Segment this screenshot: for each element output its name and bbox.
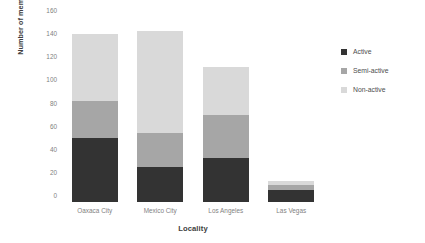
stacked-bar-chart: Number of members 160140120100806040200 … bbox=[0, 0, 425, 243]
bars-layer: Oaxaca CityMexico CityLos AngelesLas Veg… bbox=[62, 17, 324, 202]
bar-segment-non-active[interactable] bbox=[72, 34, 118, 101]
legend-item[interactable]: Semi-active bbox=[341, 61, 389, 80]
legend-label: Non-active bbox=[353, 86, 386, 93]
bar-segment-active[interactable] bbox=[203, 158, 249, 202]
plot-area: 160140120100806040200 Oaxaca CityMexico … bbox=[62, 17, 324, 202]
bar-segment-non-active[interactable] bbox=[203, 67, 249, 116]
y-axis-tick-label: 0 bbox=[31, 192, 57, 199]
bar-stack[interactable] bbox=[72, 34, 118, 202]
x-axis-tick-label: Los Angeles bbox=[208, 207, 243, 214]
legend-item[interactable]: Non-active bbox=[341, 80, 389, 99]
bar-segment-semi-active[interactable] bbox=[137, 133, 183, 168]
y-axis-tick-label: 120 bbox=[31, 53, 57, 60]
bar-stack[interactable] bbox=[268, 181, 314, 202]
bar-segment-active[interactable] bbox=[137, 167, 183, 202]
bar-segment-semi-active[interactable] bbox=[203, 115, 249, 158]
bar-group: Los Angeles bbox=[203, 17, 249, 202]
y-axis-tick-label: 160 bbox=[31, 7, 57, 14]
bar-stack[interactable] bbox=[137, 31, 183, 202]
bar-segment-active[interactable] bbox=[268, 190, 314, 202]
y-axis-tick-label: 100 bbox=[31, 76, 57, 83]
y-axis-tick-label: 80 bbox=[31, 99, 57, 106]
bar-group: Mexico City bbox=[137, 17, 183, 202]
legend-label: Active bbox=[353, 48, 372, 55]
x-axis-title: Locality bbox=[62, 224, 324, 233]
x-axis-tick-label: Las Vegas bbox=[276, 207, 306, 214]
bar-group: Las Vegas bbox=[268, 17, 314, 202]
x-axis-tick-label: Oaxaca City bbox=[77, 207, 112, 214]
legend-label: Semi-active bbox=[353, 67, 389, 74]
y-axis-tick-label: 140 bbox=[31, 30, 57, 37]
legend-swatch-icon bbox=[341, 87, 347, 93]
bar-segment-non-active[interactable] bbox=[137, 31, 183, 133]
bar-group: Oaxaca City bbox=[72, 17, 118, 202]
y-axis-tick-label: 60 bbox=[31, 122, 57, 129]
y-axis-tick-label: 20 bbox=[31, 168, 57, 175]
bar-segment-active[interactable] bbox=[72, 138, 118, 202]
legend-swatch-icon bbox=[341, 49, 347, 55]
y-axis-tick-label: 40 bbox=[31, 145, 57, 152]
legend-swatch-icon bbox=[341, 68, 347, 74]
bar-stack[interactable] bbox=[203, 67, 249, 202]
chart-legend: ActiveSemi-activeNon-active bbox=[341, 42, 389, 99]
x-axis-tick-label: Mexico City bbox=[144, 207, 177, 214]
bar-segment-semi-active[interactable] bbox=[72, 101, 118, 138]
y-axis-title: Number of members bbox=[16, 0, 28, 74]
legend-item[interactable]: Active bbox=[341, 42, 389, 61]
